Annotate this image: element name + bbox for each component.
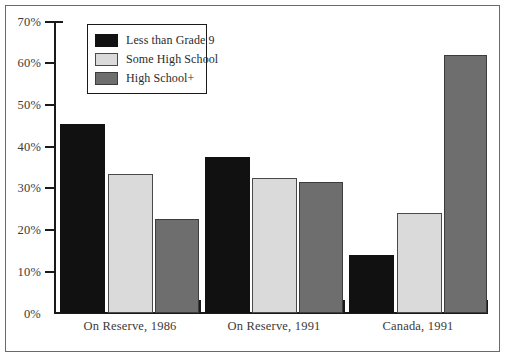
y-tick-40 xyxy=(45,146,55,148)
y-tick-label-0: 0% xyxy=(24,307,41,322)
legend-label-less-than-grade-9: Less than Grade 9 xyxy=(126,33,215,48)
bar-on-reserve-1991-high-school-plus xyxy=(299,182,343,313)
y-tick-label-10: 10% xyxy=(17,265,41,280)
bar-canada-1991-high-school-plus xyxy=(444,55,487,313)
y-tick-50 xyxy=(45,104,55,106)
x-category-label-on-reserve-1991: On Reserve, 1991 xyxy=(204,319,344,334)
y-tick-label-30: 30% xyxy=(17,181,41,196)
y-tick-label-70: 70% xyxy=(17,15,41,30)
bar-canada-1991-less-than-grade-9 xyxy=(349,255,394,313)
bar-on-reserve-1986-some-high-school xyxy=(108,174,153,313)
legend-item-less-than-grade-9: Less than Grade 9 xyxy=(95,31,199,50)
y-tick-70 xyxy=(45,21,55,23)
legend-swatch-icon-less-than-grade-9 xyxy=(95,34,118,47)
y-tick-20 xyxy=(45,229,55,231)
legend-swatch-icon-some-high-school xyxy=(95,53,118,66)
y-tick-label-50: 50% xyxy=(17,98,41,113)
y-tick-60 xyxy=(45,62,55,64)
y-tick-label-40: 40% xyxy=(17,140,41,155)
x-category-label-canada-1991: Canada, 1991 xyxy=(348,319,488,334)
legend-label-some-high-school: Some High School xyxy=(126,52,218,67)
y-tick-30 xyxy=(45,187,55,189)
chart-legend: Less than Grade 9 Some High School High … xyxy=(87,24,207,94)
bar-canada-1991-some-high-school xyxy=(397,213,442,313)
y-axis-top-cap xyxy=(54,21,63,23)
bar-on-reserve-1986-less-than-grade-9 xyxy=(60,124,105,313)
legend-item-some-high-school: Some High School xyxy=(95,50,199,69)
x-group-separator-1 xyxy=(199,300,201,313)
bar-on-reserve-1991-less-than-grade-9 xyxy=(205,157,250,313)
bar-chart-plot-area: 70% 60% 50% 40% 30% 20% 10% 0% xyxy=(0,0,507,363)
chart-figure: 70% 60% 50% 40% 30% 20% 10% 0% xyxy=(0,0,507,363)
y-tick-10 xyxy=(45,271,55,273)
legend-label-high-school-plus: High School+ xyxy=(126,71,194,86)
x-group-separator-2 xyxy=(343,300,345,313)
bar-on-reserve-1986-high-school-plus xyxy=(155,219,199,313)
x-category-label-on-reserve-1986: On Reserve, 1986 xyxy=(60,319,200,334)
y-tick-label-60: 60% xyxy=(17,56,41,71)
legend-swatch-icon-high-school-plus xyxy=(95,72,118,85)
y-tick-label-20: 20% xyxy=(17,223,41,238)
legend-item-high-school-plus: High School+ xyxy=(95,69,199,88)
bar-on-reserve-1991-some-high-school xyxy=(252,178,297,313)
